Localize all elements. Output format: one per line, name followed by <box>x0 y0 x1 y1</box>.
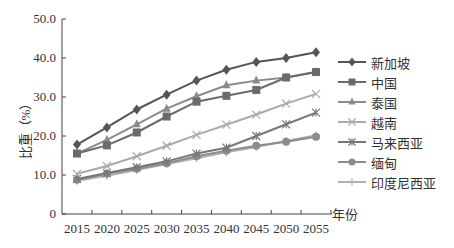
y-tick-label: 50.0 <box>33 11 56 26</box>
legend-item: 缅甸 <box>336 152 436 172</box>
x-tick-label: 2020 <box>94 221 120 236</box>
y-tick-label: 0 <box>50 206 57 221</box>
x-tick-label: 2015 <box>64 221 90 236</box>
y-tick-label: 10.0 <box>33 167 56 182</box>
x-tick-label: 2050 <box>273 221 299 236</box>
square-marker-icon <box>336 76 368 88</box>
x-tick-label: 2025 <box>124 221 150 236</box>
chart-legend: 新加坡中国泰国越南马来西亚缅甸印度尼西亚 <box>336 52 436 192</box>
x-tick-label: 2045 <box>243 221 269 236</box>
legend-label: 越南 <box>371 113 397 132</box>
x-axis-unit-label: 年份 <box>332 204 358 223</box>
legend-item: 新加坡 <box>336 52 436 72</box>
legend-label: 中国 <box>371 73 397 92</box>
legend-item: 马来西亚 <box>336 132 436 152</box>
legend-label: 新加坡 <box>371 53 410 72</box>
diamond-marker-icon <box>336 56 368 68</box>
plus-marker-icon <box>336 176 368 188</box>
x-marker-icon <box>336 116 368 128</box>
x-tick-label: 2040 <box>213 221 239 236</box>
y-tick-label: 30.0 <box>33 89 56 104</box>
circle-marker-icon <box>336 156 368 168</box>
x-tick-label: 2035 <box>184 221 210 236</box>
legend-item: 越南 <box>336 112 436 132</box>
star-marker-icon <box>336 136 368 148</box>
triangle-marker-icon <box>336 96 368 108</box>
y-tick-label: 40.0 <box>33 50 56 65</box>
legend-label: 马来西亚 <box>371 133 423 152</box>
x-tick-label: 2030 <box>154 221 180 236</box>
legend-item: 泰国 <box>336 92 436 112</box>
legend-item: 印度尼西亚 <box>336 172 436 192</box>
legend-label: 泰国 <box>371 93 397 112</box>
legend-label: 缅甸 <box>371 153 397 172</box>
x-tick-label: 2055 <box>303 221 329 236</box>
legend-item: 中国 <box>336 72 436 92</box>
y-axis-label: 比重（%） <box>15 97 34 160</box>
legend-label: 印度尼西亚 <box>371 173 436 192</box>
y-tick-label: 20.0 <box>33 128 56 143</box>
